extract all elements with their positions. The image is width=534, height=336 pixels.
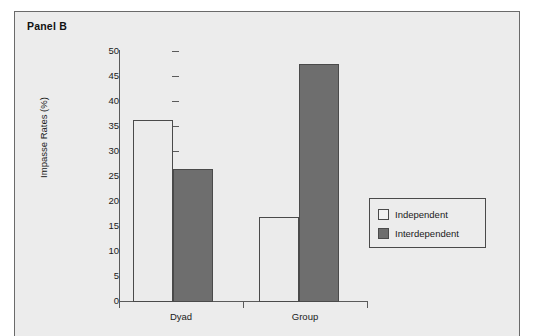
gray-square-icon xyxy=(378,228,389,239)
y-tick-45: 45 xyxy=(75,76,119,77)
y-tick-50: 50 xyxy=(75,51,119,52)
y-tick-label-35: 35 xyxy=(91,121,119,131)
y-tick-15: 15 xyxy=(75,226,119,227)
x-label-group: Group xyxy=(260,311,350,322)
y-tick-10: 10 xyxy=(75,251,119,252)
white-square-icon xyxy=(378,209,389,220)
y-tick-40: 40 xyxy=(75,101,119,102)
y-axis-title: Impasse Rates (%) xyxy=(38,53,49,223)
y-tick-30: 30 xyxy=(75,151,119,152)
y-tick-0: 0 xyxy=(75,301,119,302)
x-tick-right xyxy=(367,301,368,308)
bar-dyad-interdependent xyxy=(173,169,213,302)
legend-label-interdependent: Interdependent xyxy=(395,228,459,239)
y-tick-20: 20 xyxy=(75,201,119,202)
legend-item-independent: Independent xyxy=(378,207,448,221)
legend-label-independent: Independent xyxy=(395,209,448,220)
y-tick-label-10: 10 xyxy=(91,246,119,256)
bar-group-interdependent xyxy=(299,64,339,302)
y-tick-label-5: 5 xyxy=(91,271,119,281)
y-tick-label-30: 30 xyxy=(91,146,119,156)
y-tick-label-45: 45 xyxy=(91,71,119,81)
y-tick-label-25: 25 xyxy=(91,171,119,181)
bar-dyad-independent xyxy=(133,120,173,302)
y-tick-35: 35 xyxy=(75,126,119,127)
plot-area: Impasse Rates (%) 50 45 40 35 30 25 20 xyxy=(15,12,521,336)
legend-item-interdependent: Interdependent xyxy=(378,226,459,240)
y-tick-label-15: 15 xyxy=(91,221,119,231)
bar-group-independent xyxy=(259,217,299,302)
y-tick-25: 25 xyxy=(75,176,119,177)
y-tick-label-20: 20 xyxy=(91,196,119,206)
y-axis-line xyxy=(119,50,120,301)
x-tick-middle xyxy=(243,301,244,308)
x-tick-left xyxy=(119,301,120,308)
chart-legend: Independent Interdependent xyxy=(369,198,486,248)
y-tick-5: 5 xyxy=(75,276,119,277)
figure-panel: Panel B Impasse Rates (%) 50 45 40 35 30 xyxy=(14,11,520,336)
x-label-dyad: Dyad xyxy=(136,311,226,322)
y-tick-label-40: 40 xyxy=(91,96,119,106)
y-tick-label-0: 0 xyxy=(91,296,119,306)
y-tick-label-50: 50 xyxy=(91,46,119,56)
